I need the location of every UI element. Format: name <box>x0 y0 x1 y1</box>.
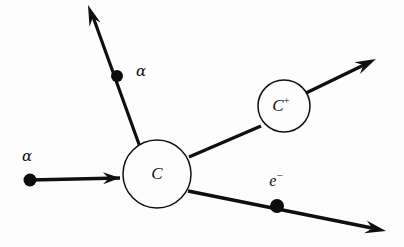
node-circle-product-ion <box>258 80 310 132</box>
particle-dot-ejected-electron <box>270 199 284 213</box>
node-label-target-atom: C <box>151 164 163 183</box>
track-line-ion-recoil-in <box>189 126 261 157</box>
track-label-ejected-electron: e− <box>269 169 282 189</box>
track-label-incident-alpha: α <box>22 147 32 165</box>
track-ejected-electron <box>188 191 386 233</box>
particle-dot-scattered-alpha <box>111 70 123 82</box>
scattering-diagram: CC+ ααe− <box>0 0 404 247</box>
diagram-canvas: CC+ ααe− <box>0 0 404 247</box>
track-charge-ejected-electron: − <box>276 169 282 181</box>
track-ion-recoil-in <box>189 126 261 157</box>
track-label-scattered-alpha: α <box>136 62 146 80</box>
node-charge-product-ion: + <box>284 94 290 106</box>
track-line-ion-recoil-out <box>306 63 368 93</box>
track-incident-alpha <box>30 172 120 184</box>
particle-dot-incident-alpha <box>24 174 37 187</box>
tracks-layer <box>30 5 386 233</box>
track-ion-recoil-out <box>306 59 376 93</box>
track-line-incident-alpha <box>30 178 120 180</box>
